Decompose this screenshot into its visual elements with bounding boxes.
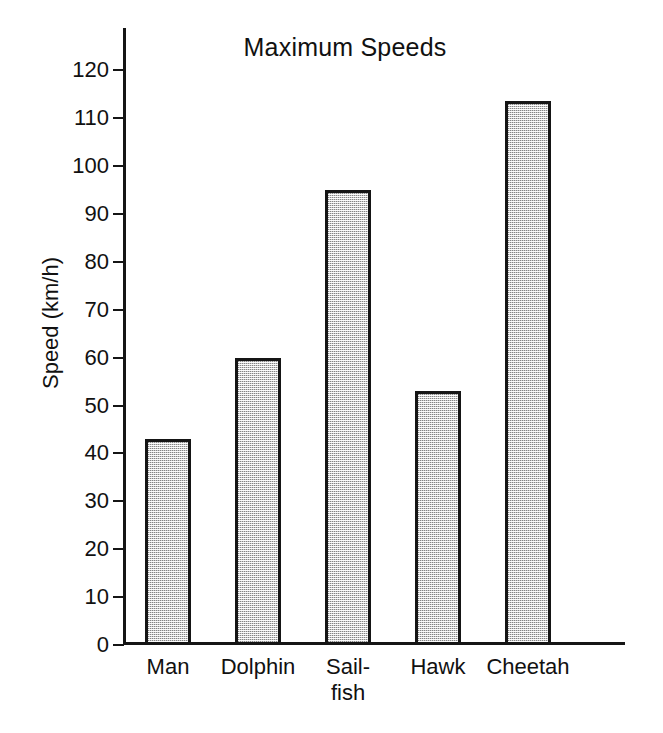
y-axis-tick <box>113 405 124 407</box>
y-axis-tick <box>113 548 124 550</box>
bar-sail-fish <box>325 190 371 645</box>
y-axis-tick-label: 120 <box>49 59 109 81</box>
y-axis-tick-label: 20 <box>49 538 109 560</box>
y-axis-tick <box>113 261 124 263</box>
y-axis-tick <box>113 165 124 167</box>
y-axis-tick-label-group: 0102030405060708090100110120 <box>47 28 109 645</box>
y-axis-line <box>123 28 126 645</box>
y-axis-tick <box>113 500 124 502</box>
y-axis-tick-label: 100 <box>49 155 109 177</box>
y-axis-tick-label: 40 <box>49 442 109 464</box>
y-axis-tick-label: 10 <box>49 586 109 608</box>
y-axis-tick-label: 60 <box>49 347 109 369</box>
bar-cheetah <box>505 101 551 645</box>
bar-dolphin <box>235 358 281 645</box>
y-axis-tick <box>113 309 124 311</box>
y-axis-tick <box>113 357 124 359</box>
x-axis-category-label: Cheetah <box>468 654 588 680</box>
bar-hawk <box>415 391 461 645</box>
y-axis-tick <box>113 452 124 454</box>
y-axis-tick-label: 0 <box>49 634 109 656</box>
y-axis-tick <box>113 596 124 598</box>
y-axis-tick-label: 50 <box>49 395 109 417</box>
y-axis-tick <box>113 117 124 119</box>
y-axis-tick-label: 70 <box>49 299 109 321</box>
y-axis-tick-label: 30 <box>49 490 109 512</box>
y-axis-tick-label: 90 <box>49 203 109 225</box>
y-axis-tick-label: 80 <box>49 251 109 273</box>
y-axis-tick <box>113 213 124 215</box>
plot-area <box>123 28 625 645</box>
bar-chart-figure: Maximum Speeds Speed (km/h) 010203040506… <box>0 0 663 733</box>
bar-man <box>145 439 191 645</box>
y-axis-tick <box>113 644 124 646</box>
y-axis-tick-label: 110 <box>49 107 109 129</box>
y-axis-tick <box>113 69 124 71</box>
